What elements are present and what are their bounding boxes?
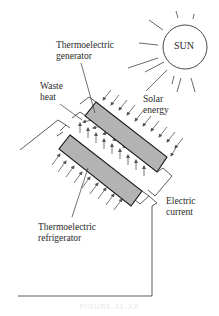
solar-energy-label: Solar energy: [143, 94, 169, 116]
electric-current-label-line2: current: [166, 207, 196, 218]
sun-label: SUN: [174, 40, 194, 51]
electric-current-label: Electric current: [166, 196, 196, 218]
solar-energy-label-line1: Solar: [143, 94, 169, 105]
waste-heat-label: Waste heat: [40, 81, 63, 103]
circuit-wires: [18, 97, 172, 296]
figure-caption: FIGURE 11-XX: [0, 303, 219, 310]
generator-label: Thermoelectric generator: [56, 40, 114, 62]
generator-label-line2: generator: [56, 51, 114, 62]
refrigerator-label-line1: Thermoelectric: [38, 222, 96, 233]
leader-lines: [60, 63, 95, 217]
solar-energy-label-line2: energy: [143, 105, 169, 116]
refrigerator-label-line2: refrigerator: [38, 233, 96, 244]
electric-current-label-line1: Electric: [166, 196, 196, 207]
sun-icon: [128, 11, 207, 92]
waste-heat-label-line2: heat: [40, 92, 63, 103]
generator-label-line1: Thermoelectric: [56, 40, 114, 51]
refrigerator-label: Thermoelectric refrigerator: [38, 222, 96, 244]
waste-heat-label-line1: Waste: [40, 81, 63, 92]
